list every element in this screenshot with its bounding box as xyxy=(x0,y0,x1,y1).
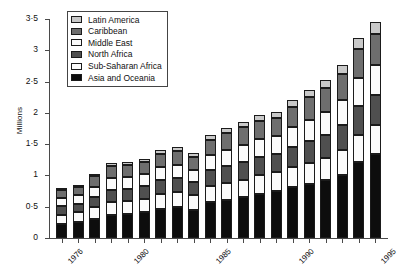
y-tick-label: 2 xyxy=(33,107,38,117)
bar-segment xyxy=(337,150,348,174)
bar-segment xyxy=(254,121,265,139)
bar-segment xyxy=(271,154,282,173)
bar-segment xyxy=(56,188,67,190)
bar-segment xyxy=(238,162,249,180)
bar-segment xyxy=(221,133,232,150)
bar-segment xyxy=(56,198,67,206)
bar-segment xyxy=(320,180,331,238)
x-tick-label: 1985 xyxy=(214,247,233,266)
legend-swatch-icon xyxy=(71,39,82,46)
bar-segment xyxy=(122,214,133,238)
bar-1989 xyxy=(271,112,282,238)
bar-segment xyxy=(353,106,364,135)
x-tick xyxy=(243,239,244,243)
bar-segment xyxy=(89,207,100,219)
bar-segment xyxy=(155,167,166,180)
y-tick-label: 1·5 xyxy=(26,138,38,148)
x-tick-label: 1976 xyxy=(66,247,85,266)
x-tick xyxy=(210,239,211,243)
bar-segment xyxy=(205,186,216,202)
y-tick: 2·5 xyxy=(45,82,49,83)
bar-segment xyxy=(188,210,199,238)
bar-segment xyxy=(172,207,183,238)
bar-segment xyxy=(287,127,298,146)
y-axis-label: Millions xyxy=(15,91,24,151)
bar-1977 xyxy=(73,185,84,238)
x-tick xyxy=(95,239,96,243)
bar-segment xyxy=(370,34,381,65)
legend-label: North Africa xyxy=(88,50,132,59)
bar-segment xyxy=(254,157,265,176)
bar-segment xyxy=(221,200,232,238)
x-tick xyxy=(375,239,376,243)
bar-segment xyxy=(221,183,232,200)
bar-segment xyxy=(139,159,150,162)
bar-segment xyxy=(106,190,117,203)
bar-segment xyxy=(139,162,150,175)
bar-1988 xyxy=(254,115,265,238)
bar-segment xyxy=(205,135,216,140)
bar-segment xyxy=(370,154,381,238)
x-tick xyxy=(177,239,178,243)
y-tick: 0·5 xyxy=(45,207,49,208)
bar-1978 xyxy=(89,174,100,238)
x-tick xyxy=(62,239,63,243)
bar-segment xyxy=(188,157,199,170)
bar-segment xyxy=(287,187,298,238)
bar-segment xyxy=(320,112,331,135)
bar-segment xyxy=(370,95,381,126)
y-tick: 2 xyxy=(45,113,49,114)
x-tick xyxy=(342,239,343,243)
legend-item-asia-and-oceania: Asia and Oceania xyxy=(71,72,162,84)
bar-segment xyxy=(122,162,133,165)
legend-label: Caribbean xyxy=(88,27,127,36)
legend-swatch-icon xyxy=(71,63,82,70)
bar-segment xyxy=(172,165,183,178)
y-tick: 3 xyxy=(45,50,49,51)
x-tick xyxy=(359,239,360,243)
x-tick xyxy=(309,239,310,243)
bar-segment xyxy=(320,135,331,158)
legend-label: Latin America xyxy=(88,16,140,25)
bar-segment xyxy=(271,118,282,136)
x-tick xyxy=(194,239,195,243)
x-tick-label: 1995 xyxy=(379,247,398,266)
bar-segment xyxy=(287,147,298,167)
x-tick xyxy=(78,239,79,243)
bar-segment xyxy=(271,191,282,238)
bar-segment xyxy=(89,187,100,197)
bar-segment xyxy=(188,153,199,157)
bar-segment xyxy=(304,120,315,141)
bar-segment xyxy=(155,150,166,154)
x-tick xyxy=(111,239,112,243)
y-tick: 3·5 xyxy=(45,19,49,20)
legend-item-caribbean: Caribbean xyxy=(71,26,162,38)
y-tick-label: 3 xyxy=(33,44,38,54)
bar-1994 xyxy=(353,38,364,238)
bar-segment xyxy=(56,224,67,238)
bar-segment xyxy=(122,189,133,202)
y-tick-label: 3·5 xyxy=(26,13,38,23)
chart-legend: Latin AmericaCaribbeanMiddle EastNorth A… xyxy=(67,11,168,87)
bar-segment xyxy=(89,174,100,177)
bar-segment xyxy=(56,190,67,198)
bar-segment xyxy=(353,135,364,162)
bar-segment xyxy=(188,182,199,195)
x-tick xyxy=(276,239,277,243)
bar-segment xyxy=(106,178,117,190)
bar-segment xyxy=(188,195,199,209)
bar-segment xyxy=(271,136,282,154)
bar-segment xyxy=(139,186,150,199)
bar-segment xyxy=(254,194,265,238)
x-tick xyxy=(293,239,294,243)
bar-segment xyxy=(106,163,117,166)
bar-segment xyxy=(221,166,232,183)
x-tick xyxy=(326,239,327,243)
bar-segment xyxy=(56,215,67,224)
bar-1990 xyxy=(287,100,298,238)
legend-label: Middle East xyxy=(88,39,132,48)
legend-swatch-icon xyxy=(71,16,82,23)
bar-segment xyxy=(139,212,150,238)
bar-segment xyxy=(172,151,183,165)
